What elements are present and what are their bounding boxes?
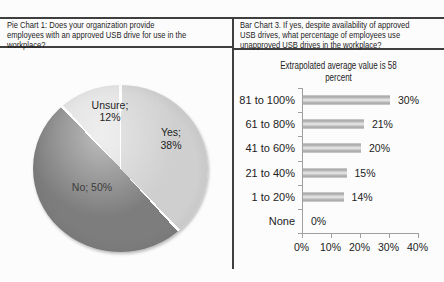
bar-value-label: 20% [369, 142, 390, 154]
bar-category-label: 21 to 40% [233, 161, 295, 185]
pie-chart-title: Pie Chart 1: Does your organization prov… [7, 20, 186, 50]
bar-row: 21% [303, 112, 419, 136]
bar-category-label: 61 to 80% [233, 112, 295, 136]
x-tick-label: 10% [316, 241, 345, 253]
bar-category-label: None [233, 209, 295, 233]
pie-label-yes-value: 38% [141, 139, 201, 152]
pie-label-yes-name: Yes; [141, 126, 201, 139]
bar-chart-subtitle-line: Extrapolated average value is 58 [254, 60, 423, 72]
bar-category-axis: 81 to 100% 61 to 80% 41 to 60% 21 to 40%… [233, 88, 295, 233]
bar-plot-area: 30% 21% 20% 15% 14% 0% [302, 88, 419, 234]
x-tick-label: 20% [345, 241, 374, 253]
bar [303, 168, 347, 178]
x-axis-tick-labels: 0% 10% 20% 30% 40% [287, 241, 437, 253]
bar [303, 95, 390, 105]
bar-chart-subtitle-line: percent [254, 72, 423, 84]
bar [303, 119, 364, 129]
bar-value-label: 0% [311, 215, 326, 227]
bar-value-label: 30% [398, 94, 419, 106]
bar-row: 0% [303, 209, 419, 233]
bar-row: 20% [303, 136, 419, 160]
bar-category-label: 81 to 100% [233, 88, 295, 112]
x-tick-label: 30% [374, 241, 403, 253]
bar-value-label: 21% [372, 118, 393, 130]
pie-label-yes: Yes; 38% [141, 126, 201, 152]
bar-category-label: 41 to 60% [233, 136, 295, 160]
x-axis-ticks [302, 234, 420, 238]
bar-category-label: 1 to 20% [233, 185, 295, 209]
pie-label-no-text: No; 50% [57, 181, 127, 193]
bar-value-label: 15% [355, 167, 376, 179]
x-tick-label: 40% [403, 241, 432, 253]
x-tick-label: 0% [287, 241, 316, 253]
pie-chart-title-line: workplace? [7, 40, 186, 50]
bar-row: 30% [303, 88, 419, 112]
bar-chart-subtitle: Extrapolated average value is 58 percent [254, 60, 423, 84]
pie-label-unsure: Unsure; 12% [80, 100, 140, 123]
bar-chart-title-line: unapproved USB drives in the workplace? [240, 40, 409, 50]
bar [303, 192, 344, 202]
bar-value-label: 14% [352, 191, 373, 203]
bar-row: 14% [303, 185, 419, 209]
bar [303, 143, 361, 153]
pie-label-unsure-value: 12% [80, 112, 140, 124]
bar-chart-title: Bar Chart 3. If yes, despite availabilit… [240, 20, 409, 50]
pie-label-unsure-name: Unsure; [80, 100, 140, 112]
bar-row: 15% [303, 161, 419, 185]
pie-label-no: No; 50% [57, 181, 127, 193]
report-page: Pie Chart 1: Does your organization prov… [0, 0, 444, 282]
